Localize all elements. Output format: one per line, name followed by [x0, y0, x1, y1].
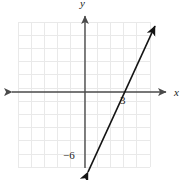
- y-intercept-label: −6: [63, 150, 75, 161]
- grid-lines: [18, 22, 150, 167]
- x-axis-label: x: [174, 87, 179, 98]
- graph-canvas: [0, 0, 184, 180]
- x-intercept-label: 3: [120, 95, 126, 106]
- y-axis-label: y: [80, 0, 85, 9]
- coordinate-plane-figure: x y 3 −6: [0, 0, 184, 180]
